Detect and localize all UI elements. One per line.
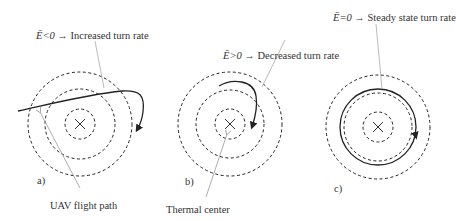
thermal-center-x-icon-c	[373, 122, 383, 132]
thermal-center-x-icon-a	[75, 119, 85, 129]
leader-line-flight-path	[40, 112, 80, 188]
flight-path-b	[219, 81, 257, 127]
label-panel-b-condition: Ē>0 → Decreased turn rate	[223, 50, 339, 61]
callout-thermal-center: Thermal center	[166, 204, 230, 215]
thermal-center-x-icon-b	[225, 119, 235, 129]
label-panel-a-condition: Ē<0 → Increased turn rate	[36, 30, 149, 41]
turn-rate-description-a: Increased turn rate	[71, 30, 149, 41]
energy-condition-b: Ē>0 →	[223, 50, 255, 61]
panel-label-b: b)	[185, 176, 194, 187]
energy-condition-a: Ē<0 →	[36, 30, 68, 41]
leader-line-a-top	[95, 41, 104, 88]
callout-uav-flight-path: UAV flight path	[50, 200, 117, 211]
leader-line-b-top	[262, 40, 285, 87]
label-panel-c-condition: Ē=0 → Steady state turn rate	[333, 12, 456, 23]
energy-condition-c: Ē=0 →	[333, 12, 365, 23]
leader-line-c-top	[376, 24, 382, 89]
turn-rate-description-b: Decreased turn rate	[258, 50, 340, 61]
panel-label-a: a)	[37, 175, 45, 186]
turn-rate-description-c: Steady state turn rate	[368, 12, 456, 23]
leader-line-thermal-center	[206, 134, 227, 197]
panel-label-c: c)	[334, 183, 342, 194]
